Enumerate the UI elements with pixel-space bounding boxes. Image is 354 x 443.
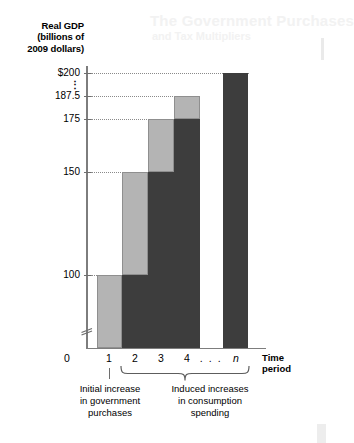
y-axis-line	[86, 66, 88, 349]
bar-period-3-dark	[148, 172, 174, 348]
bar-period-1-light	[97, 275, 122, 348]
caption-initial-increase: Initial increase in government purchases	[62, 383, 158, 420]
caption-induced-increases: Induced increases in consumption spendin…	[158, 383, 262, 420]
bar-period-n-dark	[223, 73, 248, 348]
caption-induced-line-1: Induced increases	[158, 383, 262, 395]
annotation-tick-period-1	[109, 368, 110, 379]
y-axis-title-line-1: Real GDP	[6, 20, 84, 31]
bar-period-3-light	[148, 119, 174, 172]
caption-initial-line-1: Initial increase	[62, 383, 158, 395]
x-axis-label-0: 0	[57, 352, 77, 364]
x-axis-title-line-1: Time	[262, 352, 322, 363]
y-axis-label-175: 175	[16, 114, 80, 124]
bar-period-4-light	[174, 96, 200, 119]
caption-initial-line-2: in government	[62, 395, 158, 407]
y-axis-label-187-5: 187.5	[16, 91, 80, 101]
x-axis-label-1: 1	[99, 352, 119, 364]
page-edge-artifact-right	[321, 38, 324, 60]
y-axis-label-200: $200	[16, 68, 80, 78]
x-axis-label-3: 3	[151, 352, 171, 364]
axis-break-icon	[79, 322, 95, 338]
page-edge-artifact-corner	[317, 424, 326, 443]
caption-induced-line-3: spending	[158, 407, 262, 419]
y-axis-title: Real GDP (billions of 2009 dollars)	[6, 20, 84, 54]
y-axis-label-150: 150	[16, 167, 80, 177]
y-axis-title-line-3: 2009 dollars)	[6, 43, 84, 54]
x-axis-title: Time period	[262, 352, 322, 375]
y-axis-title-line-2: (billions of	[6, 31, 84, 42]
annotation-brace-periods	[120, 366, 250, 381]
y-tick-150	[84, 172, 91, 173]
ghost-title-text: The Government Purchases	[150, 12, 354, 29]
x-axis-label-2: 2	[125, 352, 145, 364]
y-axis-ellipsis: ⋮	[16, 82, 80, 88]
x-axis-label-ellipsis: . . .	[199, 352, 223, 364]
bar-period-4-dark	[174, 119, 200, 348]
x-axis-label-4: 4	[177, 352, 197, 364]
x-axis-title-line-2: period	[262, 363, 322, 374]
x-axis-label-n: n	[226, 352, 246, 364]
caption-induced-line-2: in consumption	[158, 395, 262, 407]
y-axis-label-100: 100	[16, 270, 80, 280]
bar-period-2-dark	[122, 275, 148, 348]
y-tick-187-5	[84, 96, 91, 97]
y-tick-175	[84, 119, 91, 120]
caption-initial-line-3: purchases	[62, 407, 158, 419]
x-axis-line	[86, 348, 266, 350]
bar-period-2-light	[122, 172, 148, 275]
y-tick-100	[84, 275, 91, 276]
y-tick-200	[84, 73, 91, 74]
ghost-subtitle-text: and Tax Multipliers	[152, 30, 251, 42]
